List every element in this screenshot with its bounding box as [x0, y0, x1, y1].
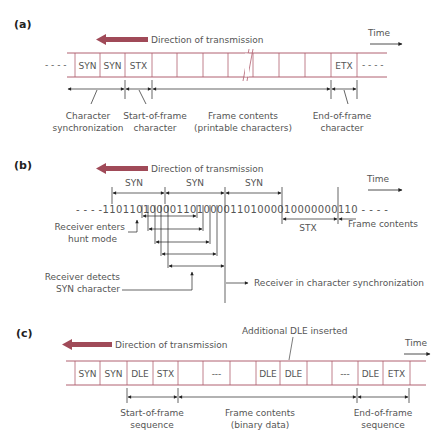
- end-frame-label-2: character: [320, 123, 363, 133]
- leading-dots: - - - -: [45, 60, 67, 70]
- detects-syn-label-2: SYN character: [56, 284, 120, 294]
- frame-c-cell-12: ETX: [388, 369, 405, 379]
- frame-a-cell-2: STX: [130, 61, 147, 71]
- frame-a-cell-1: SYN: [104, 61, 122, 71]
- transmission-diagram: (a) Direction of transmission Time SYNSY…: [0, 0, 445, 448]
- direction-label: Direction of transmission: [115, 340, 228, 350]
- panel-b: (b) Direction of transmission Time SYN S…: [14, 159, 424, 303]
- start-seq-label-1: Start-of-frame: [120, 408, 184, 418]
- hunt-mode-label-1: Receiver enters: [55, 222, 126, 232]
- dimension-arrows: [68, 80, 357, 104]
- start-frame-label-2: character: [133, 123, 176, 133]
- bitstream: - - - -110110100001101000011010000100000…: [76, 204, 388, 215]
- additional-dle-pointer: [289, 337, 293, 360]
- direction-arrow-icon: [96, 163, 148, 174]
- hunt-mode-label-2: hunt mode: [68, 234, 117, 244]
- trailing-dots: - - - -: [362, 60, 384, 70]
- direction-arrow-icon: [96, 34, 148, 45]
- frame-c: SYNSYNDLESTX---DLEDLE---DLEETX: [66, 361, 426, 385]
- stx-label: STX: [299, 223, 316, 233]
- start-seq-label-2: sequence: [130, 420, 174, 430]
- frame-c-cell-3: STX: [157, 369, 174, 379]
- syn-label-3: SYN: [245, 178, 263, 188]
- end-seq-label-2: sequence: [361, 420, 405, 430]
- direction-arrow-icon: [62, 339, 112, 350]
- char-sync-label-2: synchronization: [52, 123, 123, 133]
- frame-a-cell-10: ETX: [335, 61, 352, 71]
- panel-c-label: (c): [16, 327, 33, 340]
- frame-c-cell-7: DLE: [259, 369, 277, 379]
- start-frame-label-1: Start-of-frame: [123, 111, 187, 121]
- detects-syn-label-1: Receiver detects: [45, 272, 121, 282]
- panel-a: (a) Direction of transmission Time SYNSY…: [14, 18, 402, 133]
- end-frame-label-1: End-of-frame: [313, 111, 372, 121]
- frame-contents-label-2: (printable characters): [194, 123, 292, 133]
- time-label: Time: [404, 338, 427, 348]
- frame-contents-label-1: Frame contents: [225, 408, 295, 418]
- frame-c-cell-2: DLE: [131, 369, 149, 379]
- syn-label-2: SYN: [186, 178, 204, 188]
- end-seq-label-1: End-of-frame: [354, 408, 413, 418]
- additional-dle-label: Additional DLE inserted: [242, 326, 347, 336]
- frame-contents-label-2: (binary data): [231, 420, 290, 430]
- direction-label: Direction of transmission: [151, 164, 264, 174]
- frame-contents-label: Frame contents: [348, 219, 418, 229]
- frame-c-cell-11: DLE: [362, 369, 380, 379]
- frame-c-cell-8: DLE: [285, 369, 303, 379]
- syn-label-1: SYN: [125, 178, 143, 188]
- frame-c-cell-10: ---: [340, 369, 350, 379]
- frame-c-cell-0: SYN: [79, 369, 97, 379]
- frame-a-cell-0: SYN: [79, 61, 97, 71]
- time-label: Time: [367, 28, 390, 38]
- direction-label: Direction of transmission: [151, 35, 264, 45]
- frame-a: SYNSYNSTXETX: [67, 49, 387, 81]
- frame-c-cell-1: SYN: [105, 369, 123, 379]
- time-label: Time: [366, 174, 389, 184]
- panel-c: (c) Direction of transmission Additional…: [16, 326, 430, 430]
- frame-contents-label-1: Frame contents: [208, 111, 278, 121]
- char-sync-label-1: Character: [66, 111, 111, 121]
- in-sync-label: Receiver in character synchronization: [254, 278, 424, 288]
- panel-a-label: (a): [14, 18, 31, 31]
- frame-c-cell-5: ---: [212, 369, 222, 379]
- dimension-arrows: [127, 388, 409, 403]
- panel-b-label: (b): [14, 159, 32, 172]
